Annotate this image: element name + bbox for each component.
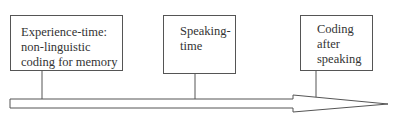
box-experience-time: Experience-time: non-linguistic coding f… [10,15,123,71]
timeline-arrow-icon [10,95,388,112]
box-speaking-time-line1: Speaking- [180,24,231,39]
box-experience-time-line2: non-linguistic [21,40,90,55]
box-coding-after-speaking-line2: after [317,37,340,52]
box-speaking-time-line2: time [180,39,202,54]
box-coding-after-speaking: Coding after speaking [300,15,373,71]
box-coding-after-speaking-line1: Coding [317,22,354,37]
box-speaking-time: Speaking- time [163,15,236,74]
box-experience-time-line1: Experience-time: [21,25,107,40]
box-experience-time-line3: coding for memory [21,55,118,70]
box-coding-after-speaking-line3: speaking [317,52,361,67]
